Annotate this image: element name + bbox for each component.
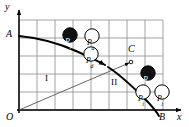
region-label-two: II: [111, 78, 118, 87]
label-candidate-a: Pa: [87, 32, 95, 51]
region-label-one: I: [45, 74, 48, 83]
label-candidate-t-sub: t: [162, 101, 164, 107]
point-a-label: A: [6, 29, 12, 39]
x-axis-label: x: [177, 112, 181, 122]
markers-layer: [63, 28, 169, 99]
label-candidate-i2-sub: i: [143, 101, 145, 107]
label-particle-i: Pi: [65, 31, 71, 50]
origin-label: O: [6, 112, 13, 122]
label-candidate-t: Pt: [157, 88, 163, 107]
geometric-diagram: y x O A B C I II Pi Pa Pd Pj Pi Pt: [0, 0, 189, 127]
label-particle-j-sub: j: [148, 82, 150, 88]
diagram-canvas: [0, 0, 189, 127]
label-candidate-i2: Pi: [138, 88, 144, 107]
y-axis-label: y: [5, 2, 9, 12]
label-candidate-d-sub: d: [91, 63, 94, 69]
label-particle-i-sub: i: [70, 44, 72, 50]
point-b-label: B: [159, 112, 165, 122]
label-particle-j: Pj: [143, 69, 149, 88]
point-c-label: C: [128, 44, 135, 54]
node-c: [129, 60, 133, 64]
label-candidate-d: Pd: [86, 50, 94, 69]
